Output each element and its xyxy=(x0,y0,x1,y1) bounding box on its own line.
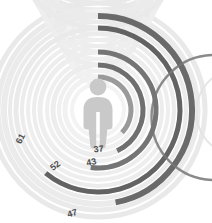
ring-label-43: 43 xyxy=(85,156,97,168)
radial-chart-svg: 3743475261 xyxy=(0,0,212,223)
radial-ring-chart: 3743475261 xyxy=(0,0,212,223)
person-head xyxy=(90,79,107,96)
ring-label-37: 37 xyxy=(93,143,104,154)
